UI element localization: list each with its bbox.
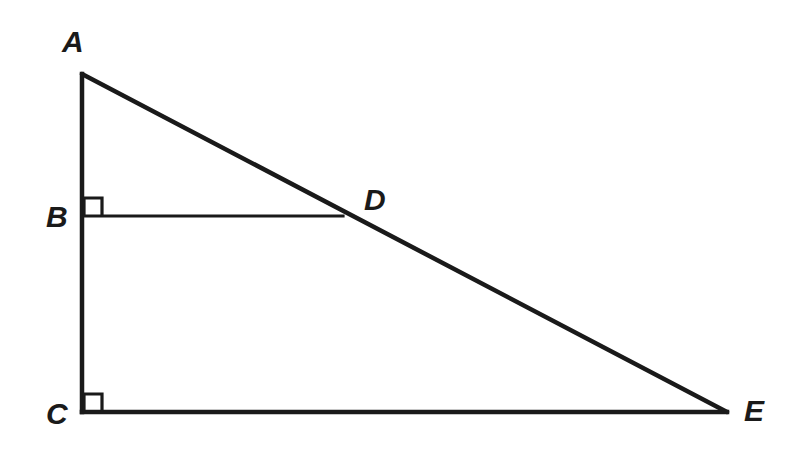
geometry-diagram: A B C D E [0, 0, 796, 452]
right-angle-marker-C [84, 394, 102, 412]
vertex-label-D: D [364, 183, 386, 216]
right-angle-marker-B [84, 198, 102, 216]
segment-AE [82, 74, 727, 412]
vertex-label-C: C [46, 397, 69, 430]
vertex-label-A: A [61, 25, 84, 58]
vertex-label-B: B [46, 200, 68, 233]
vertex-label-E: E [744, 394, 765, 427]
